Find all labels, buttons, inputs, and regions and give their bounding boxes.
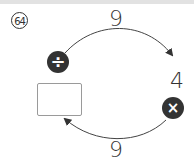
divide-icon: ÷ xyxy=(47,51,69,73)
right-value: 4 xyxy=(170,68,184,93)
bottom-value: 9 xyxy=(109,137,123,162)
top-value: 9 xyxy=(109,6,123,31)
top-arrow xyxy=(65,28,172,55)
multiply-icon: × xyxy=(162,97,184,119)
cycle-arrows xyxy=(0,0,194,165)
bottom-arrow xyxy=(65,119,166,139)
answer-input-box[interactable] xyxy=(37,83,82,116)
